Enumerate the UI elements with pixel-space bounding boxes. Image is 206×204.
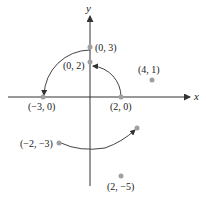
label-2-neg5: (2, −5) [107, 181, 134, 193]
rotation-arrow-0-3 [44, 50, 90, 95]
rotation-arrow-neg2-neg3 [61, 130, 135, 149]
point-neg2-neg3 [57, 141, 62, 146]
label-neg2-neg3: (−2, −3) [20, 138, 53, 150]
label-0-2: (0, 2) [63, 60, 85, 72]
label-2-0: (2, 0) [110, 101, 132, 113]
rotation-arrow-2-0 [93, 66, 121, 97]
point-2-0 [119, 95, 124, 100]
label-0-3: (0, 3) [95, 42, 117, 54]
y-axis-label: y [85, 2, 91, 14]
coordinate-plane: x y (0, 3) (0, 2) (4, 1) (−3, 0) (2, 0) … [0, 0, 206, 204]
point-neg3-0 [41, 95, 46, 100]
point-0-2 [88, 60, 93, 65]
label-4-1: (4, 1) [138, 64, 160, 76]
point-4-1 [150, 78, 155, 83]
point-0-3 [88, 45, 93, 50]
x-axis-label: x [193, 90, 199, 102]
label-neg3-0: (−3, 0) [28, 101, 55, 113]
point-2-neg5 [119, 174, 124, 179]
point-3-neg2 [135, 126, 140, 131]
